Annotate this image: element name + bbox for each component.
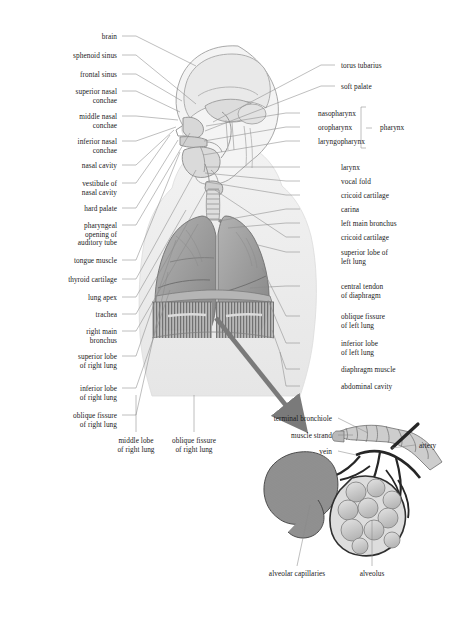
label-lung-apex: lung apex — [52, 294, 117, 303]
leader-superior-nasal-conchae — [122, 91, 180, 112]
label-diaphragm-muscle: diaphragm muscle — [341, 366, 461, 375]
label-superior-nasal-conchae: superior nasal conchae — [36, 88, 117, 105]
label-inferior-lobe-of-left-lung: inferior lobe of left lung — [341, 340, 461, 357]
label-soft-palate: soft palate — [341, 83, 461, 92]
leader-vestibule-of-nasal-cavity — [122, 135, 170, 183]
alveolus-inset — [264, 424, 442, 556]
alveolar-capillaries — [264, 452, 338, 538]
label-cricoid-cartilage: cricoid cartilage — [341, 234, 461, 243]
leader-vein — [338, 451, 356, 455]
label-vestibule-of-nasal-cavity: vestibule of nasal cavity — [44, 180, 117, 197]
label-middle-nasal-conchae: middle nasal conchae — [40, 113, 117, 130]
leader-inferior-nasal-conchae — [122, 127, 176, 141]
label-oblique-fissure-of-right-lung: oblique fissure of right lung — [149, 437, 239, 454]
label-larynx: larynx — [341, 164, 461, 173]
label-oblique-fissure-of-right-lung: oblique fissure of right lung — [34, 412, 117, 429]
label-carina: carina — [341, 206, 461, 215]
label-alveolus: alveolus — [322, 570, 422, 579]
label-muscle-strand: muscle strand — [266, 432, 332, 441]
label-vocal-fold: vocal fold — [341, 178, 461, 187]
label-left-main-bronchus: left main bronchus — [341, 220, 461, 229]
label-artery: artery — [419, 442, 463, 451]
label-abdominal-cavity: abdominal cavity — [341, 383, 461, 392]
label-nasopharynx: nasopharynx — [318, 110, 438, 119]
label-nasal-cavity: nasal cavity — [46, 162, 117, 171]
label-oblique-fissure-of-left-lung: oblique fissure of left lung — [341, 313, 461, 330]
label-superior-lobe-of-left-lung: superior lobe of left lung — [341, 249, 461, 266]
muscle-strand — [332, 431, 344, 442]
alveoli-cluster — [330, 476, 406, 556]
label-inferior-nasal-conchae: inferior nasal conchae — [38, 138, 117, 155]
label-sphenoid-sinus: sphenoid sinus — [28, 52, 117, 61]
leader-frontal-sinus — [122, 74, 182, 101]
leader-brain — [122, 36, 196, 66]
label-trachea: trachea — [60, 311, 117, 320]
label-torus-tubarius: torus tubarius — [341, 62, 461, 71]
leader-middle-nasal-conchae — [122, 116, 178, 120]
respiratory-system-figure: brainsphenoid sinusfrontal sinussuperior… — [0, 0, 465, 622]
label-pharynx-group: pharynx — [380, 124, 440, 133]
label-brain: brain — [62, 33, 117, 42]
label-pharyngeal-opening-of-auditory-tube: pharyngeal opening of auditory tube — [38, 222, 117, 248]
label-hard-palate: hard palate — [48, 205, 117, 214]
label-thyroid-cartilage: thyroid cartilage — [24, 276, 117, 285]
label-central-tendon-of-diaphragm: central tendon of diaphragm — [341, 283, 461, 300]
label-tongue-muscle: tongue muscle — [30, 257, 117, 266]
label-vein: vein — [305, 448, 332, 457]
label-superior-lobe-of-right-lung: superior lobe of right lung — [40, 353, 117, 370]
label-terminal-bronchiole: terminal bronchiole — [250, 415, 332, 424]
label-cricoid-cartilage: cricoid cartilage — [341, 192, 461, 201]
label-right-main-bronchus: right main bronchus — [52, 328, 117, 345]
label-inferior-lobe-of-right-lung: inferior lobe of right lung — [42, 385, 117, 402]
label-laryngopharynx: laryngopharynx — [318, 138, 438, 147]
leader-nasal-cavity — [122, 130, 174, 165]
label-frontal-sinus: frontal sinus — [40, 71, 117, 80]
